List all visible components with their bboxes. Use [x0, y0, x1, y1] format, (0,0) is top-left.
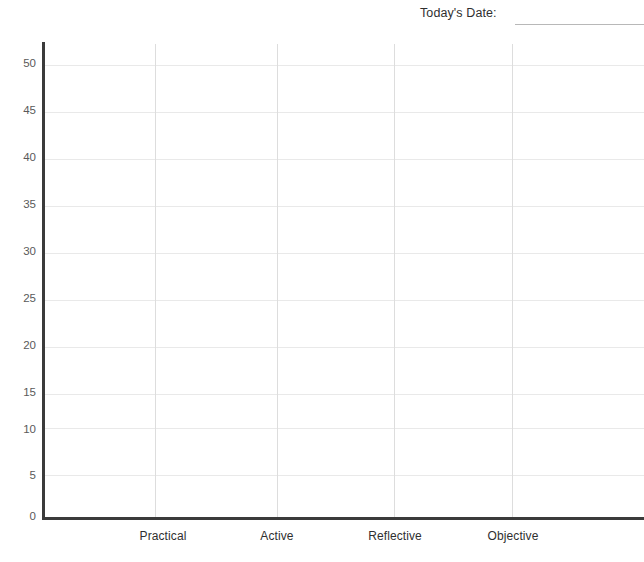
x-axis-category-label: Reflective — [368, 529, 422, 543]
y-axis-tick-label: 5 — [2, 469, 36, 481]
worksheet-page: Today's Date: 50454035302520151050 Pract… — [0, 0, 644, 562]
gridline-horizontal — [44, 394, 644, 395]
chart-plot-area: 50454035302520151050 PracticalActiveRefl… — [0, 0, 644, 562]
y-axis-tick-labels: 50454035302520151050 — [0, 0, 36, 562]
gridline-vertical — [394, 44, 395, 518]
gridline-horizontal — [44, 300, 644, 301]
y-axis-tick-label: 40 — [2, 151, 36, 163]
y-axis-tick-label: 25 — [2, 292, 36, 304]
y-axis-tick-label: 15 — [2, 386, 36, 398]
x-axis-line — [42, 517, 644, 520]
gridline-horizontal — [44, 65, 644, 66]
gridline-vertical — [277, 44, 278, 518]
gridline-vertical — [155, 44, 156, 518]
x-axis-category-label: Practical — [140, 529, 187, 543]
y-axis-tick-label: 10 — [2, 423, 36, 435]
gridline-horizontal — [44, 475, 644, 476]
gridline-horizontal — [44, 347, 644, 348]
y-axis-tick-label: 20 — [2, 339, 36, 351]
gridline-horizontal — [44, 253, 644, 254]
gridline-horizontal — [44, 159, 644, 160]
y-axis-line — [42, 42, 45, 520]
y-axis-tick-label: 45 — [2, 104, 36, 116]
y-axis-tick-label: 30 — [2, 245, 36, 257]
x-axis-category-label: Objective — [488, 529, 539, 543]
gridline-vertical — [512, 44, 513, 518]
x-axis-category-label: Active — [260, 529, 293, 543]
gridline-horizontal — [44, 206, 644, 207]
y-axis-tick-label: 50 — [2, 57, 36, 69]
gridline-horizontal — [44, 112, 644, 113]
gridline-horizontal — [44, 428, 644, 429]
y-axis-tick-label: 35 — [2, 198, 36, 210]
y-axis-tick-label: 0 — [2, 510, 36, 522]
